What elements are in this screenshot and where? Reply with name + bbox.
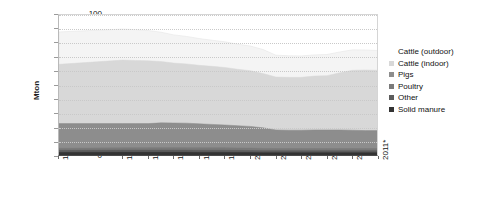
y-gridline [59,86,377,87]
legend-swatch-icon [389,107,394,112]
x-axis-tick-mark [276,156,277,159]
x-axis-tick-mark [173,156,174,159]
x-axis-tick-mark [148,156,149,159]
x-axis-tick-mark [327,156,328,159]
y-gridline [59,71,377,72]
legend-label: Poultry [398,82,423,91]
legend-item[interactable]: Pigs [389,69,484,81]
x-axis-tick-mark [122,156,123,159]
y-gridline [59,100,377,101]
legend-label: Pigs [398,70,414,79]
y-axis-title: Mton [32,61,41,121]
y-gridline [59,57,377,58]
legend-item[interactable]: Other [389,92,484,104]
y-gridline [59,15,377,16]
legend-item[interactable]: Cattle (indoor) [389,58,484,70]
x-axis-tick-mark [199,156,200,159]
legend-swatch-icon [389,61,394,66]
y-gridline [59,128,377,129]
x-axis-tick-mark [352,156,353,159]
x-axis-tick-mark [224,156,225,159]
y-gridline [59,142,377,143]
area-series-solid-manure [59,152,377,155]
x-axis-tick-mark [58,156,59,159]
plot-inner [59,15,377,155]
x-axis-tick-mark [250,156,251,159]
legend-label: Cattle (outdoor) [398,47,454,56]
plot-area [58,14,378,156]
legend-swatch-icon [389,84,394,89]
stacked-area-chart: Mton 1009080706050403020100 198619911993… [0,0,484,204]
area-series-svg [59,15,377,155]
legend-swatch-icon [389,95,394,100]
legend-item[interactable]: Poultry [389,81,484,93]
y-gridline [59,114,377,115]
legend-label: Other [398,93,418,102]
y-gridline [59,43,377,44]
legend-item[interactable]: Cattle (outdoor) [389,46,484,58]
legend-label: Solid manure [398,105,445,114]
legend-swatch-icon [389,72,394,77]
legend-swatch-icon [389,49,394,54]
x-axis-tick-mark [378,156,379,159]
x-axis-tick-mark [301,156,302,159]
legend-label: Cattle (indoor) [398,59,449,68]
chart-legend: Cattle (outdoor)Cattle (indoor)PigsPoult… [389,46,484,115]
x-axis-tick-label: 2011* [382,140,390,160]
y-gridline [59,29,377,30]
legend-item[interactable]: Solid manure [389,104,484,116]
